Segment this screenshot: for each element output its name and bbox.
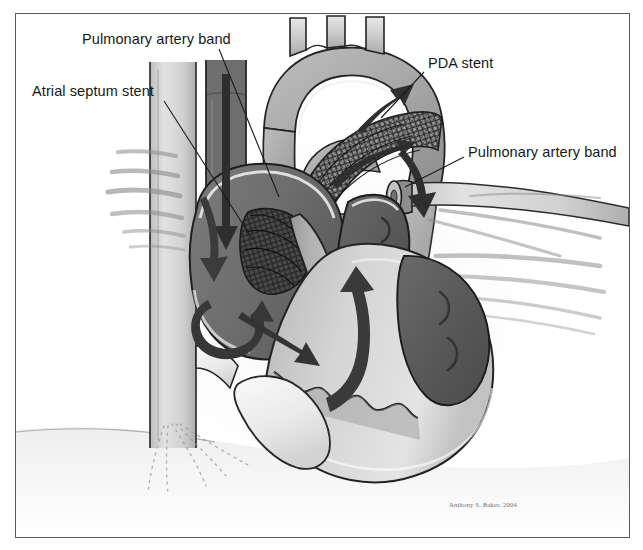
label-pulmonary-artery-band-right: Pulmonary artery band bbox=[468, 145, 617, 160]
label-atrial-septum-stent: Atrial septum stent bbox=[32, 84, 154, 99]
illustration-figure: Pulmonary artery band Atrial septum sten… bbox=[0, 0, 643, 550]
label-pda-stent: PDA stent bbox=[428, 56, 493, 71]
artist-credit: Anthony S. Baker, 2004 bbox=[449, 501, 517, 508]
label-pulmonary-artery-band-left: Pulmonary artery band bbox=[82, 32, 231, 47]
